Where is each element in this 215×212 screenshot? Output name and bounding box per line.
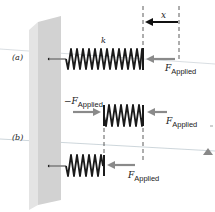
force-label-b-right: FApplied xyxy=(166,116,197,126)
displacement-label: x xyxy=(161,10,166,20)
force-label-b-lower: FApplied xyxy=(128,170,159,180)
force-label-a: FApplied xyxy=(165,63,196,73)
diagram-canvas xyxy=(0,0,215,212)
triangle-marker-icon xyxy=(203,148,213,155)
spring-b-upper xyxy=(104,105,143,126)
force-arrow-b-lower xyxy=(107,161,135,169)
force-arrow-a xyxy=(146,55,175,63)
force-label-b-left: −FApplied xyxy=(64,96,103,106)
force-arrow-b-right xyxy=(147,108,167,116)
spring-a xyxy=(48,48,143,70)
force-subscript: Applied xyxy=(171,67,196,76)
force-subscript: Applied xyxy=(172,120,197,129)
panel-label-a: (a) xyxy=(12,53,23,62)
panel-label-b: (b) xyxy=(12,133,23,142)
wall xyxy=(29,16,61,210)
force-subscript: Applied xyxy=(134,174,159,183)
spring-constant-label: k xyxy=(101,36,106,45)
force-arrow-b-left xyxy=(73,108,101,116)
force-subscript: Applied xyxy=(78,100,103,109)
force-symbol: −F xyxy=(64,96,78,106)
